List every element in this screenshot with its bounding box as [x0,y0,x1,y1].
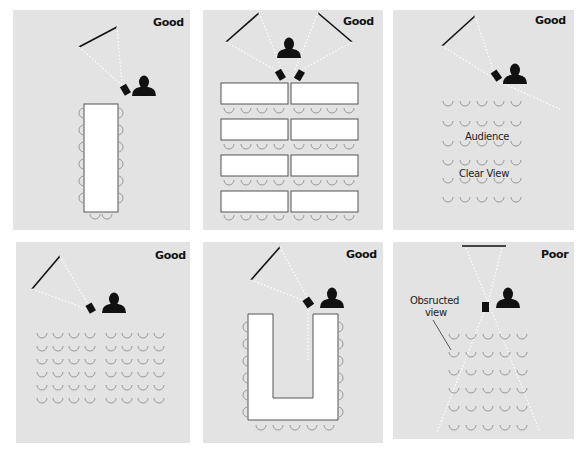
panel-theater-wide: Good [16,242,190,443]
rating-label: Good [153,16,184,29]
note-obstructed: Obsructed [410,295,459,306]
table [84,104,118,212]
rating-label: Good [343,15,374,28]
rating-label: Poor [541,248,569,261]
panel-boardroom: Good [13,10,190,230]
projector-icon [482,302,489,312]
panel-u-shape: Good [203,242,383,443]
panel-theater-center: Poor Obsructed view [393,242,574,439]
note-clear-view: Clear View [459,168,509,179]
rating-label: Good [535,14,566,27]
layout-diagram: Good Good [0,0,583,452]
panel-theater-angled: Good Audience Clear View [393,10,574,230]
note-view: view [425,307,447,318]
rating-label: Good [346,248,377,261]
panel-classroom: Good [203,10,383,230]
note-audience: Audience [465,131,509,142]
rating-label: Good [155,249,186,262]
